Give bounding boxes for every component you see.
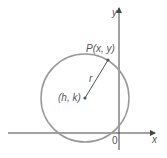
point-label: P(x, y): [86, 44, 115, 54]
y-axis-label: y: [112, 8, 117, 18]
point-p: [106, 58, 109, 61]
x-axis-label: x: [152, 135, 157, 145]
center-label: (h, k): [58, 93, 81, 103]
center-point: [83, 96, 86, 99]
origin-label: 0: [112, 136, 118, 146]
diagram-canvas: [0, 0, 167, 158]
circle-diagram: y x 0 P(x, y) (h, k) r: [0, 0, 167, 158]
radius-label: r: [89, 74, 92, 84]
